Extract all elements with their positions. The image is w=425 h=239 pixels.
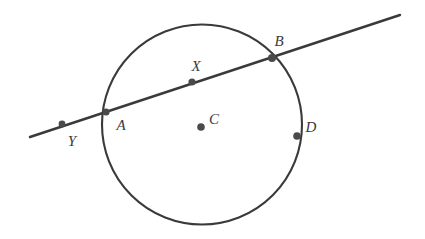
point-dot-a <box>102 108 109 115</box>
point-dot-d <box>293 132 301 140</box>
point-dots-group <box>59 54 301 140</box>
point-dot-c <box>197 123 205 131</box>
point-label-x: X <box>191 59 200 74</box>
point-label-c: C <box>209 112 219 127</box>
point-label-d: D <box>306 120 317 135</box>
point-label-y: Y <box>68 134 76 149</box>
point-dot-b <box>268 54 276 62</box>
point-label-b: B <box>274 34 283 49</box>
geometry-figure: YAXCBD <box>0 0 425 239</box>
point-dot-x <box>188 78 195 85</box>
point-label-a: A <box>116 118 125 133</box>
point-dot-y <box>59 121 66 128</box>
